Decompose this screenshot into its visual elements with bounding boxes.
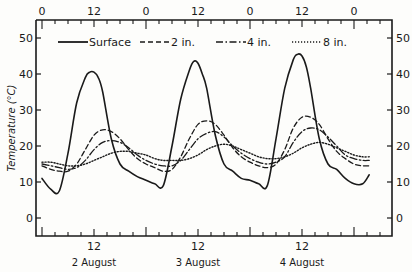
- x-axis-bottom: 1212122 August3 August4 August: [42, 227, 380, 268]
- x-tick-label-top: 12: [87, 5, 101, 18]
- y-tick-label-left: 30: [19, 104, 33, 117]
- x-tick-label-top: 0: [143, 5, 150, 18]
- y-tick-label-right: 10: [396, 176, 410, 189]
- x-axis-top: 0120120120: [39, 5, 381, 29]
- y-axis-title: Temperature (°C): [6, 85, 17, 172]
- y-tick-label-right: 0: [396, 212, 403, 225]
- legend-label: Surface: [89, 36, 131, 49]
- series-line-4-in: [42, 128, 369, 169]
- y-tick-label-left: 0: [26, 212, 33, 225]
- x-tick-label-top: 0: [247, 5, 254, 18]
- legend-label: 4 in.: [247, 36, 271, 49]
- series-line-surface: [42, 54, 369, 194]
- date-label: 4 August: [280, 257, 325, 268]
- x-tick-label-top: 12: [191, 5, 205, 18]
- legend-label: 8 in.: [323, 36, 347, 49]
- date-label: 2 August: [72, 257, 117, 268]
- date-label: 3 August: [176, 257, 221, 268]
- x-tick-label-bottom: 12: [87, 240, 101, 253]
- y-tick-label-left: 20: [19, 140, 33, 153]
- y-tick-label-left: 10: [19, 176, 33, 189]
- y-tick-label-right: 30: [396, 104, 410, 117]
- y-axis-right: 01020304050: [387, 32, 410, 225]
- x-tick-label-top: 0: [351, 5, 358, 18]
- x-tick-label-bottom: 12: [191, 240, 205, 253]
- legend: Surface2 in.4 in.8 in.: [58, 36, 347, 49]
- data-series: [42, 54, 369, 194]
- y-axis-left: 01020304050: [19, 32, 41, 225]
- x-tick-label-top: 12: [295, 5, 309, 18]
- series-line-8-in: [42, 142, 369, 166]
- x-tick-label-top: 0: [39, 5, 46, 18]
- temperature-chart: 01020304050 01020304050 0120120120 12121…: [0, 0, 412, 272]
- legend-label: 2 in.: [171, 36, 195, 49]
- x-tick-label-bottom: 12: [295, 240, 309, 253]
- y-tick-label-right: 50: [396, 32, 410, 45]
- y-tick-label-right: 20: [396, 140, 410, 153]
- y-tick-label-right: 40: [396, 68, 410, 81]
- y-tick-label-left: 40: [19, 68, 33, 81]
- y-tick-label-left: 50: [19, 32, 33, 45]
